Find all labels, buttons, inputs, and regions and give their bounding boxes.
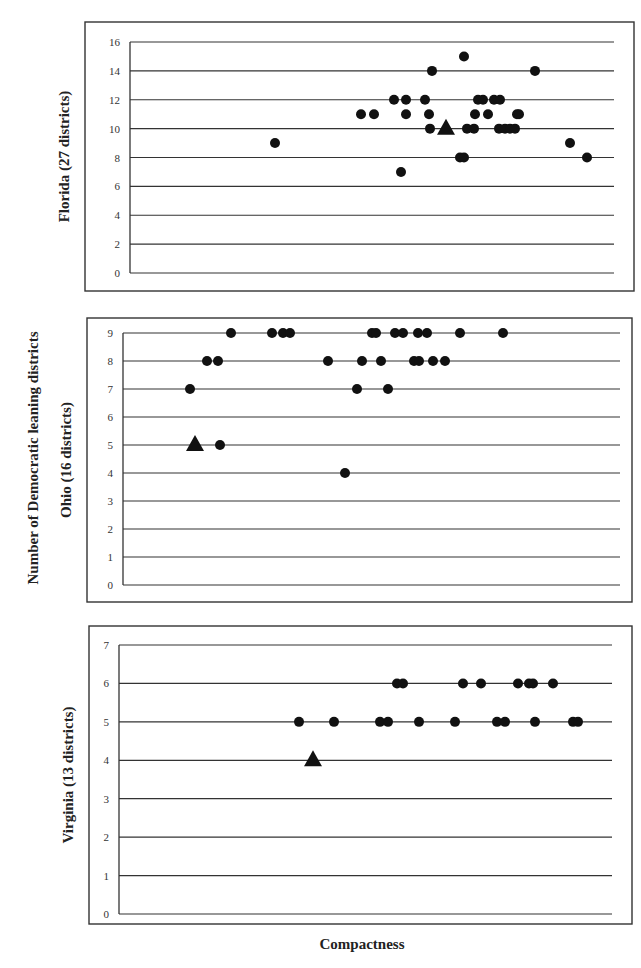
data-point (356, 109, 366, 119)
data-point (401, 109, 411, 119)
y-tick-label: 3 (108, 495, 114, 507)
data-point (294, 717, 304, 727)
chart-panels: 0246810121416Florida (27 districts)01234… (56, 22, 634, 924)
data-point (510, 124, 520, 134)
data-point (398, 678, 408, 688)
data-point (498, 328, 508, 338)
y-tick-label: 7 (108, 383, 114, 395)
enacted-plan-marker (186, 435, 204, 451)
panel-y-axis-label: Virginia (13 districts) (60, 707, 77, 844)
data-point (267, 328, 277, 338)
y-tick-label: 4 (115, 209, 121, 221)
data-point (428, 356, 438, 366)
data-point (469, 124, 479, 134)
chart-figure: 0246810121416Florida (27 districts)01234… (0, 0, 641, 968)
y-tick-label: 7 (104, 639, 110, 651)
data-point (513, 678, 523, 688)
y-tick-label: 0 (115, 267, 121, 279)
panel-florida: 0246810121416Florida (27 districts) (56, 22, 634, 291)
data-point (401, 95, 411, 105)
data-point (413, 328, 423, 338)
data-point (383, 384, 393, 394)
data-point (371, 328, 381, 338)
data-point (270, 138, 280, 148)
data-point (185, 384, 195, 394)
y-tick-label: 2 (108, 523, 114, 535)
data-point (530, 66, 540, 76)
data-point (573, 717, 583, 727)
data-point (340, 468, 350, 478)
y-tick-label: 0 (108, 579, 114, 591)
y-tick-label: 0 (104, 908, 110, 920)
y-tick-label: 6 (104, 677, 110, 689)
data-point (369, 109, 379, 119)
data-point (548, 678, 558, 688)
enacted-plan-marker (304, 750, 322, 766)
chart-canvas: 0246810121416Florida (27 districts)01234… (0, 0, 641, 968)
data-point (422, 328, 432, 338)
y-tick-label: 3 (104, 793, 110, 805)
data-point (565, 138, 575, 148)
data-point (383, 717, 393, 727)
data-point (202, 356, 212, 366)
panel-ohio: 0123456789Ohio (16 districts) (58, 318, 632, 602)
data-point (398, 328, 408, 338)
data-point (420, 95, 430, 105)
y-tick-label: 5 (104, 716, 110, 728)
data-point (528, 678, 538, 688)
x-axis-label: Compactness (320, 936, 405, 952)
data-point (478, 95, 488, 105)
data-point (414, 717, 424, 727)
panel-virginia: 01234567Virginia (13 districts) (60, 626, 632, 924)
panel-frame (85, 22, 634, 291)
data-point (495, 95, 505, 105)
data-point (455, 328, 465, 338)
data-point (514, 109, 524, 119)
enacted-plan-marker (437, 119, 455, 135)
data-point (450, 717, 460, 727)
y-tick-label: 9 (108, 327, 114, 339)
y-tick-label: 4 (104, 754, 110, 766)
data-point (357, 356, 367, 366)
data-point (483, 109, 493, 119)
data-point (459, 153, 469, 163)
y-tick-label: 12 (109, 94, 120, 106)
y-tick-label: 4 (108, 467, 114, 479)
data-point (396, 167, 406, 177)
y-tick-label: 1 (104, 870, 110, 882)
data-point (215, 440, 225, 450)
data-point (425, 124, 435, 134)
data-point (530, 717, 540, 727)
y-tick-label: 2 (115, 238, 121, 250)
data-point (323, 356, 333, 366)
data-point (582, 153, 592, 163)
data-point (285, 328, 295, 338)
y-tick-label: 6 (108, 411, 114, 423)
y-tick-label: 16 (109, 36, 121, 48)
y-tick-label: 8 (108, 355, 114, 367)
data-point (376, 356, 386, 366)
data-point (458, 678, 468, 688)
data-point (352, 384, 362, 394)
shared-y-axis-label: Number of Democratic leaning districts (25, 331, 41, 584)
data-point (213, 356, 223, 366)
data-point (329, 717, 339, 727)
data-point (389, 95, 399, 105)
data-point (470, 109, 480, 119)
y-tick-label: 6 (115, 180, 121, 192)
data-point (427, 66, 437, 76)
panel-y-axis-label: Florida (27 districts) (56, 91, 73, 223)
y-tick-label: 10 (109, 123, 121, 135)
y-tick-label: 1 (108, 551, 114, 563)
y-tick-label: 8 (115, 152, 121, 164)
data-point (440, 356, 450, 366)
data-point (476, 678, 486, 688)
y-tick-label: 2 (104, 831, 110, 843)
y-tick-label: 5 (108, 439, 114, 451)
data-point (424, 109, 434, 119)
y-tick-label: 14 (109, 65, 121, 77)
panel-y-axis-label: Ohio (16 districts) (58, 402, 75, 518)
panel-frame (89, 626, 632, 924)
data-point (459, 51, 469, 61)
data-point (500, 717, 510, 727)
